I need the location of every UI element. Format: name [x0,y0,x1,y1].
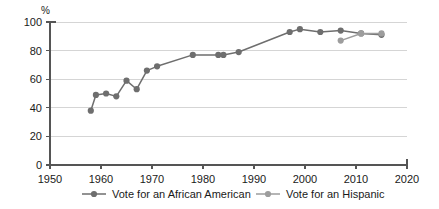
x-tick-label-2000: 2000 [293,173,317,185]
x-tick-label-1960: 1960 [89,173,113,185]
data-point [317,29,323,35]
data-point [287,29,293,35]
chart-container: 020406080100 195019601970198019902000201… [0,0,439,209]
x-axis-tick-labels: 19501960197019801990200020102020 [38,173,419,185]
data-point [358,30,364,36]
y-axis [46,22,50,165]
y-tick-label-0: 0 [36,159,42,171]
y-axis-unit-label: % [41,5,50,16]
data-point [236,49,242,55]
data-point [123,78,129,84]
gridlines [50,22,407,136]
y-tick-label-100: 100 [24,16,42,28]
legend-label: Vote for an Hispanic [286,188,385,200]
y-tick-label-20: 20 [30,130,42,142]
data-point [190,52,196,58]
x-tick-label-2020: 2020 [395,173,419,185]
legend-swatch-marker [265,191,271,197]
data-point [103,90,109,96]
x-tick-label-1970: 1970 [140,173,164,185]
data-point [338,37,344,43]
data-point [220,52,226,58]
legend-swatch-marker [91,191,97,197]
data-point [338,27,344,33]
x-tick-label-1990: 1990 [242,173,266,185]
x-tick-label-1980: 1980 [191,173,215,185]
y-tick-label-40: 40 [30,102,42,114]
x-tick-label-2010: 2010 [344,173,368,185]
data-point [378,30,384,36]
chart-legend: Vote for an African AmericanVote for an … [82,188,385,200]
y-tick-label-80: 80 [30,45,42,57]
x-tick-label-1950: 1950 [38,173,62,185]
x-axis [50,22,407,169]
series-2 [338,30,385,43]
data-point [134,86,140,92]
data-point [144,68,150,74]
line-chart: 020406080100 195019601970198019902000201… [0,0,439,209]
data-point [113,93,119,99]
y-tick-label-60: 60 [30,73,42,85]
legend-label: Vote for an African American [112,188,251,200]
data-point [154,63,160,69]
legend-item-1[interactable]: Vote for an African American [82,188,251,200]
y-axis-tick-labels: 020406080100 [24,16,42,171]
data-point [88,108,94,114]
data-series-group [88,26,385,114]
data-point [93,92,99,98]
data-point [297,26,303,32]
legend-item-2[interactable]: Vote for an Hispanic [256,188,385,200]
